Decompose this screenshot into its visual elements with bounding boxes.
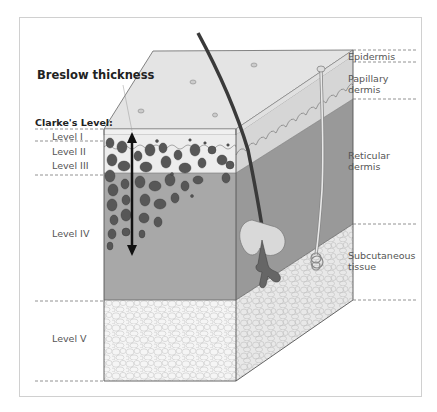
layer-papillary-line1: Papillary (348, 73, 388, 84)
clarke-level-2: Level II (52, 146, 86, 157)
front-reticular (104, 173, 236, 300)
clarke-level-heading: Clarke's Level: (35, 117, 113, 128)
layer-epidermis: Epidermis (348, 51, 395, 62)
layer-papillary-line2: dermis (348, 84, 388, 95)
clarke-level-5: Level V (52, 333, 87, 344)
layer-reticular-line1: Reticular (348, 150, 390, 161)
front-subcutaneous (104, 300, 236, 381)
layer-papillary-dermis: Papillary dermis (348, 73, 388, 95)
breslow-thickness-title: Breslow thickness (37, 68, 154, 82)
front-epidermis (104, 129, 236, 135)
layer-subcutaneous-line2: tissue (348, 261, 416, 272)
layer-reticular-dermis: Reticular dermis (348, 150, 390, 172)
layer-subcutaneous-tissue: Subcutaneous tissue (348, 250, 416, 272)
layer-reticular-line2: dermis (348, 161, 390, 172)
layer-subcutaneous-line1: Subcutaneous (348, 250, 416, 261)
clarke-level-3: Level III (52, 160, 89, 171)
clarke-level-4: Level IV (52, 228, 89, 239)
clarke-level-1: Level I (52, 131, 83, 142)
